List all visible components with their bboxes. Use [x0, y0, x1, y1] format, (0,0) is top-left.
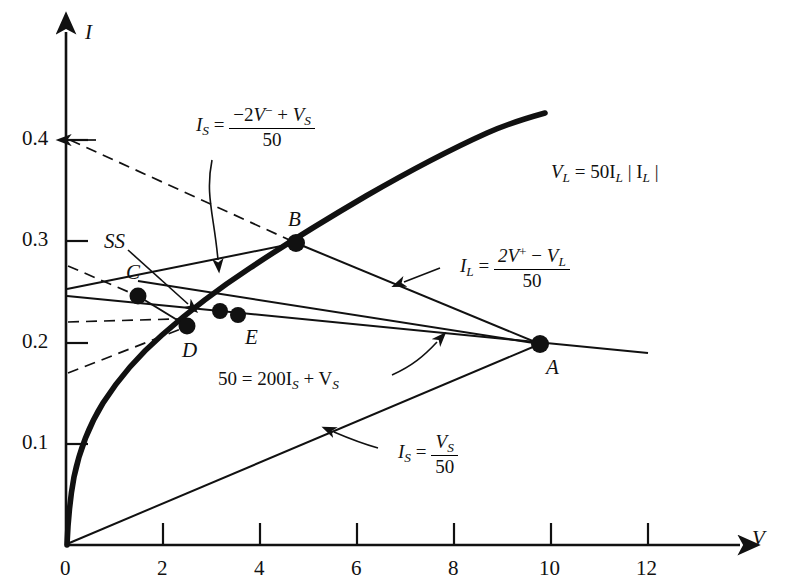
- leader-IL: [404, 268, 440, 282]
- Is-num-vs: V: [293, 104, 305, 125]
- IL-denominator: 50: [494, 269, 570, 290]
- point-label-SS: SS: [104, 231, 125, 252]
- VL-lhs: V: [551, 161, 563, 182]
- annotation-Is-simple: IS = VS 50: [398, 432, 458, 476]
- y-axis-label: I: [85, 22, 92, 43]
- y-tick-label-0: 0.4: [22, 128, 48, 149]
- IL-fraction: 2V+ − VL 50: [494, 245, 570, 290]
- x-tick-label-4: 8: [448, 558, 459, 579]
- Iss-fraction: VS 50: [431, 432, 458, 476]
- IL-num-vl: V: [547, 245, 559, 266]
- chart-canvas: [0, 0, 795, 588]
- equals-sign-2: =: [478, 255, 489, 276]
- Is-num-plus: +: [277, 104, 288, 125]
- leader-source-eq: [392, 342, 437, 375]
- x-tick-label-0: 0: [60, 558, 71, 579]
- y-tick-label-3: 0.1: [22, 432, 48, 453]
- y-tick-label-2: 0.2: [22, 331, 48, 352]
- point-marker-E: [230, 307, 246, 323]
- Is-num-lead: −2: [233, 104, 253, 125]
- leader-Is-formula: [209, 160, 218, 260]
- Iss-numerator: VS: [431, 432, 458, 455]
- src-eq-b: + V: [303, 368, 332, 389]
- x-axis-ticks: [163, 523, 648, 545]
- x-tick-label-6: 12: [636, 558, 657, 579]
- dashed-lower-mid: [68, 319, 185, 322]
- IL-numerator: 2V+ − VL: [494, 245, 570, 269]
- line-IL-load: [138, 281, 540, 344]
- VL-abs-sub: L: [643, 170, 650, 185]
- Is-numerator: −2V− + VS: [229, 104, 315, 128]
- chart-figure: I V 0.4 0.3 0.2 0.1 0 2 4 6 8 10 12 A B …: [0, 0, 795, 588]
- IL-num-minus: −: [531, 245, 542, 266]
- curve-VL-50IL: [67, 113, 545, 545]
- point-label-B: B: [288, 209, 301, 230]
- IL-lhs-sub: L: [466, 264, 473, 279]
- src-eq-a: 50 = 200I: [218, 368, 292, 389]
- VL-lhs-sub: L: [563, 170, 570, 185]
- point-label-C: C: [126, 262, 140, 283]
- point-label-E: E: [245, 327, 258, 348]
- dashed-lower-left: [68, 327, 186, 373]
- Iss-denominator: 50: [431, 455, 458, 476]
- annotation-Is-formula: IS = −2V− + VS 50: [196, 104, 315, 149]
- VL-abs-open: | I: [628, 161, 643, 182]
- leader-Is-simple: [334, 432, 378, 448]
- Is-num-vs-sub: S: [304, 113, 311, 128]
- VL-rhs-sub: L: [616, 170, 623, 185]
- annotation-VL-formula: VL = 50IL | IL |: [551, 162, 659, 184]
- IL-num-2v: 2V: [498, 245, 519, 266]
- Is-fraction: −2V− + VS 50: [229, 104, 315, 149]
- x-tick-label-2: 4: [254, 558, 265, 579]
- Is-denominator: 50: [229, 128, 315, 149]
- Iss-num-sub: S: [447, 440, 454, 455]
- annotation-IL-formula: IL = 2V+ − VL 50: [460, 245, 570, 290]
- x-axis-label: V: [752, 528, 765, 549]
- equals-sign-3: =: [416, 441, 427, 462]
- Is-lhs-sub: S: [202, 123, 209, 138]
- point-marker-D: [179, 318, 196, 335]
- x-tick-label-1: 2: [157, 558, 168, 579]
- point-marker-C: [130, 288, 147, 305]
- x-tick-label-3: 6: [351, 558, 362, 579]
- x-tick-label-5: 10: [539, 558, 560, 579]
- annotation-source-equation: 50 = 200IS + VS: [218, 369, 339, 391]
- point-label-A: A: [546, 357, 559, 378]
- VL-rhs: = 50I: [575, 161, 616, 182]
- Iss-num-v: V: [436, 431, 448, 452]
- point-label-D: D: [182, 340, 197, 361]
- Is-num-sup: −: [265, 103, 273, 118]
- Iss-lhs-sub: S: [404, 450, 411, 465]
- point-marker-SS: [212, 303, 228, 319]
- Is-num-v: V: [253, 104, 265, 125]
- IL-num-sup: +: [519, 244, 527, 259]
- y-tick-label-1: 0.3: [22, 229, 48, 250]
- VL-abs-close: |: [655, 161, 659, 182]
- src-eq-a-sub: S: [292, 377, 299, 392]
- point-marker-A: [531, 335, 549, 353]
- point-marker-B: [287, 234, 305, 252]
- src-eq-b-sub: S: [332, 377, 339, 392]
- equals-sign-1: =: [214, 114, 225, 135]
- line-SS-upper: [67, 243, 296, 289]
- y-axis-ticks: [66, 140, 88, 444]
- IL-num-vl-sub: L: [558, 254, 565, 269]
- dashed-from-0p4: [70, 140, 296, 243]
